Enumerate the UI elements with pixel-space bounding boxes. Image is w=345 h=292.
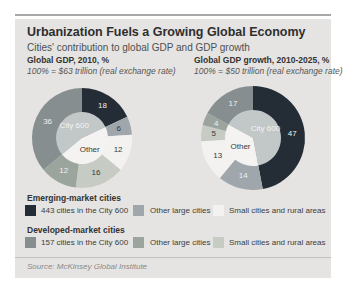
legend-label-developed-city600: 157 cities in the City 600 (41, 238, 128, 247)
exhibit-subtitle: Cities' contribution to global GDP and G… (27, 42, 250, 53)
center-label-other: Other (230, 142, 250, 151)
slice-value-label: 13 (213, 151, 222, 160)
legend-label-emerging-small: Small cities and rural areas (229, 206, 325, 215)
slice-value-label: 36 (43, 117, 52, 126)
slice-value-label: 16 (92, 168, 101, 177)
page: Urbanization Fuels a Growing Global Econ… (0, 0, 345, 292)
legend-swatch-emerging-other (133, 205, 144, 216)
source-text: Source: McKinsey Global Institute (27, 262, 147, 271)
legend-label-emerging-other: Other large cities (150, 206, 210, 215)
legend-swatch-developed-small (213, 237, 224, 248)
slice-value-label: 12 (114, 145, 123, 154)
legend-title-emerging: Emerging-market cities (27, 193, 121, 203)
slice-value-label: 5 (211, 129, 216, 138)
exhibit-title: Urbanization Fuels a Growing Global Econ… (27, 25, 306, 39)
slice-value-label: 4 (214, 119, 219, 128)
slice-value-label: 47 (288, 129, 297, 138)
right-chart-note: 100% = $50 trillion (real exchange rate) (194, 66, 343, 76)
legend-swatch-developed-other (133, 237, 144, 248)
slice-value-label: 14 (239, 171, 248, 180)
center-label-other: Other (80, 145, 100, 154)
donut-chart-gdp-growth: 4714135417City 600Other (190, 80, 318, 198)
left-chart-title: Global GDP, 2010, % (27, 55, 109, 65)
legend-label-emerging-city600: 443 cities in the City 600 (41, 206, 128, 215)
right-chart-title: Global GDP growth, 2010-2025, % (194, 55, 329, 65)
top-rule (15, 14, 331, 16)
slice-value-label: 12 (59, 166, 68, 175)
legend-row-developed: 157 cities in the City 600 Other large c… (15, 237, 331, 249)
legend-swatch-emerging-city600 (25, 205, 36, 216)
legend-label-developed-small: Small cities and rural areas (229, 238, 325, 247)
center-label-city600: City 600 (60, 121, 90, 130)
slice-value-label: 17 (228, 99, 237, 108)
donut-chart-global-gdp: 18612161236City 600Other (22, 82, 142, 196)
legend-label-developed-other: Other large cities (150, 238, 210, 247)
legend-title-developed: Developed-market cities (27, 225, 125, 235)
slice-value-label: 18 (98, 101, 107, 110)
legend-swatch-emerging-small (213, 205, 224, 216)
source-divider (15, 257, 331, 258)
center-label-city600: City 600 (251, 124, 281, 133)
legend-row-emerging: 443 cities in the City 600 Other large c… (15, 205, 331, 217)
slice-value-label: 6 (117, 124, 122, 133)
legend-swatch-developed-city600 (25, 237, 36, 248)
left-chart-note: 100% = $63 trillion (real exchange rate) (27, 66, 176, 76)
exhibit-panel: Urbanization Fuels a Growing Global Econ… (15, 19, 331, 278)
